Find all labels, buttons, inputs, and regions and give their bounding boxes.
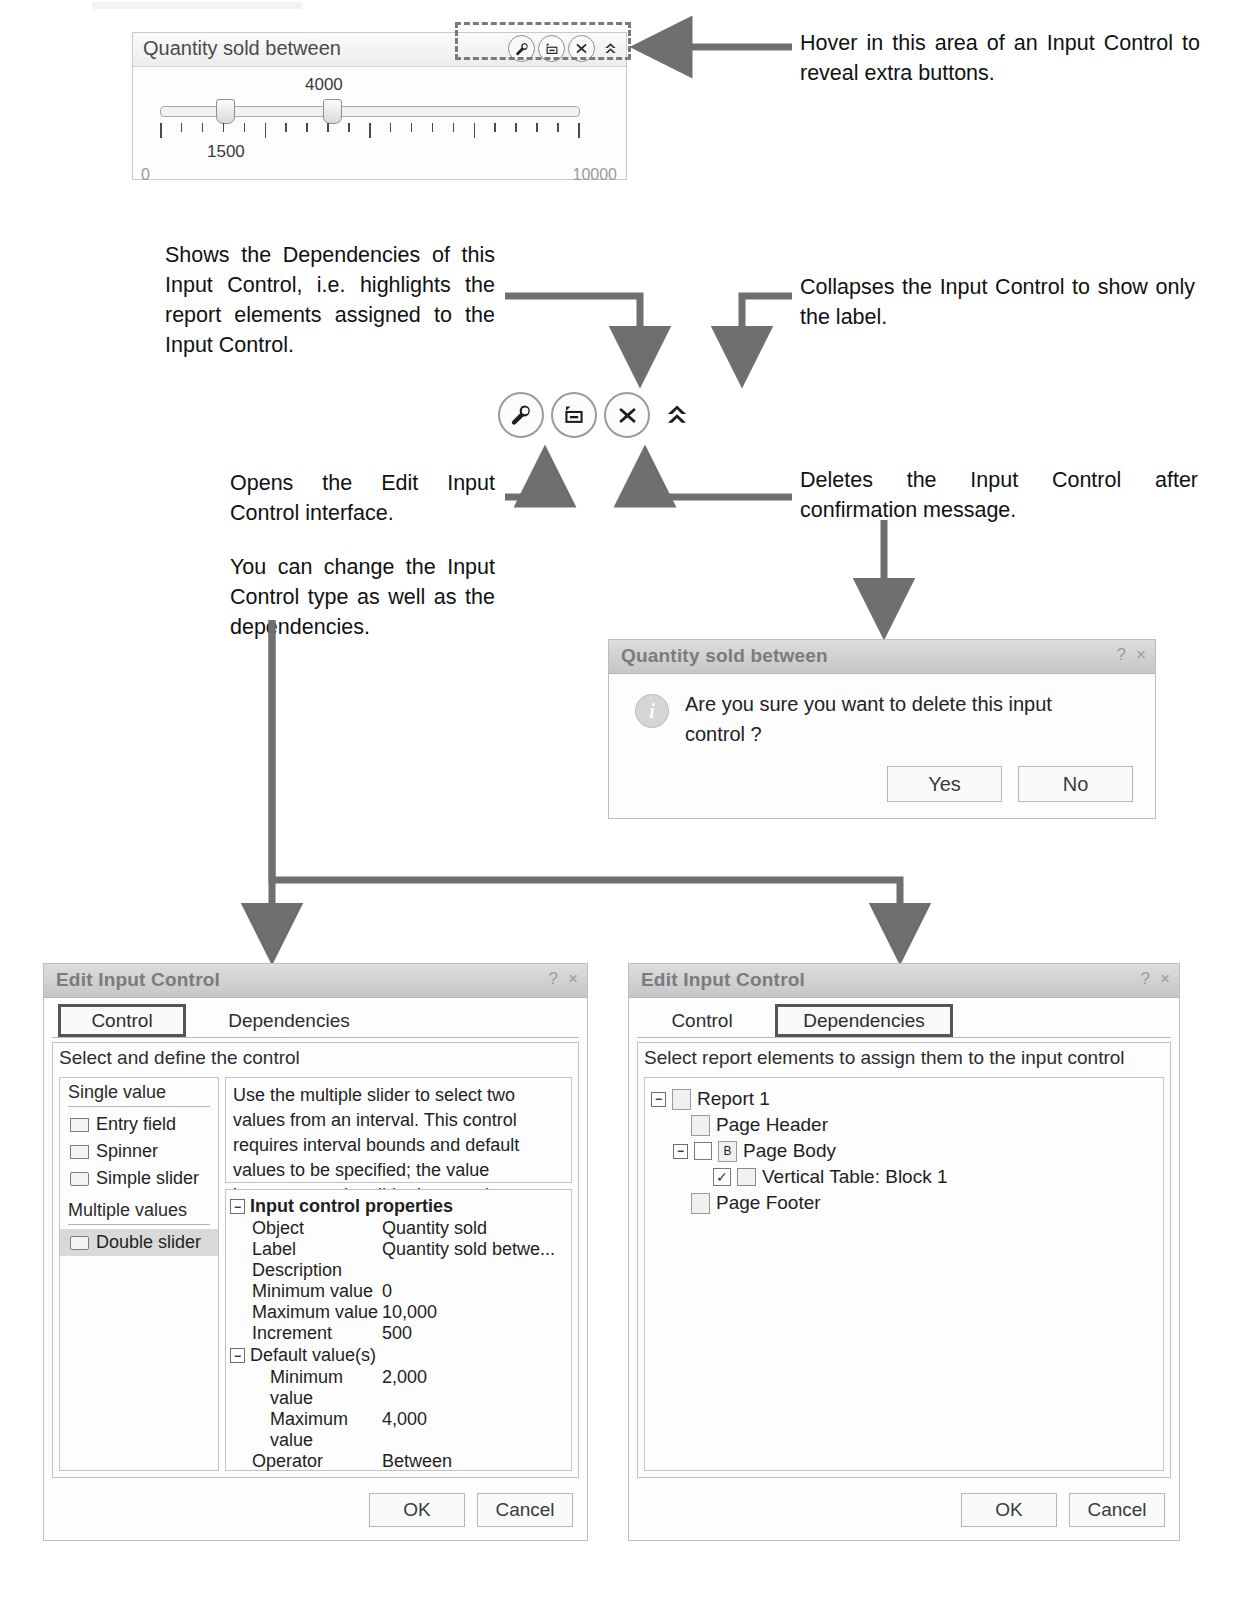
double-slider-icon <box>70 1236 89 1250</box>
property-row: Minimum value 2,000 <box>230 1367 567 1409</box>
help-icon[interactable]: ? <box>1117 645 1126 665</box>
property-value[interactable]: 2,000 <box>382 1367 567 1409</box>
body-icon: B <box>718 1141 737 1162</box>
dependencies-icon[interactable] <box>551 392 597 438</box>
slider-thumb-high[interactable] <box>323 99 342 124</box>
dialog-title-buttons: ? × <box>549 969 578 989</box>
property-value[interactable]: 500 <box>382 1323 567 1344</box>
group-label: Default value(s) <box>250 1345 376 1366</box>
property-value[interactable]: 4,000 <box>382 1409 567 1451</box>
property-key: Maximum value <box>230 1409 382 1451</box>
edit-input-control-dialog-dependencies: Edit Input Control ? × Control Dependenc… <box>628 963 1180 1541</box>
property-value[interactable]: 10,000 <box>382 1302 567 1323</box>
property-value[interactable]: Between <box>382 1451 567 1472</box>
property-value[interactable]: 0 <box>382 1281 567 1302</box>
annotation-dependencies: Shows the Dependencies of this Input Con… <box>165 240 495 360</box>
slider-value-low: 1500 <box>207 142 245 162</box>
property-key: Label <box>230 1239 382 1260</box>
spinner-icon <box>70 1145 89 1159</box>
group-heading-multiple: Multiple values <box>60 1192 218 1223</box>
property-key: Operator <box>230 1451 382 1472</box>
close-icon[interactable]: × <box>1160 969 1170 989</box>
tree-node-label: Page Footer <box>716 1192 821 1214</box>
property-row: Minimum value 0 <box>230 1281 567 1302</box>
tree-node-label: Page Header <box>716 1114 828 1136</box>
control-type-entry-field[interactable]: Entry field <box>60 1111 218 1138</box>
tab-control[interactable]: Control <box>647 1004 757 1037</box>
annotation-hover: Hover in this area of an Input Control t… <box>800 28 1200 88</box>
dialog-title: Edit Input Control <box>641 969 805 991</box>
property-value[interactable] <box>382 1260 567 1281</box>
cancel-button[interactable]: Cancel <box>1069 1493 1165 1527</box>
annotation-delete: Deletes the Input Control after confirma… <box>800 465 1198 525</box>
collapse-toggle-icon[interactable]: − <box>230 1199 245 1214</box>
report-icon <box>672 1089 691 1110</box>
info-icon: i <box>635 694 669 728</box>
control-type-spinner[interactable]: Spinner <box>60 1138 218 1165</box>
tab-dependencies[interactable]: Dependencies <box>204 1004 374 1037</box>
dialog-buttons: OK Cancel <box>369 1493 573 1527</box>
default-values-group-header[interactable]: − Default value(s) <box>230 1344 567 1367</box>
input-control-toolbar-callout <box>498 392 697 438</box>
dialog-title-buttons: ? × <box>1117 645 1146 665</box>
confirmation-buttons: Yes No <box>887 766 1133 802</box>
cancel-button[interactable]: Cancel <box>477 1493 573 1527</box>
tree-node-label: Vertical Table: Block 1 <box>762 1166 948 1188</box>
tree-node-page-footer[interactable]: Page Footer <box>651 1190 1157 1216</box>
control-panel: Select and define the control Single val… <box>52 1042 579 1478</box>
cut-off-text-artifact <box>92 2 302 9</box>
tab-dependencies[interactable]: Dependencies <box>775 1004 953 1037</box>
tree-node-report[interactable]: − Report 1 <box>651 1086 1157 1112</box>
close-x-icon[interactable] <box>604 392 650 438</box>
tree-node-vertical-table[interactable]: ✓ Vertical Table: Block 1 <box>651 1164 1157 1190</box>
page-icon <box>691 1193 710 1214</box>
property-value[interactable]: Quantity sold betwe... <box>382 1239 567 1260</box>
tree-node-label: Report 1 <box>697 1088 770 1110</box>
entry-field-icon <box>70 1118 89 1132</box>
slider-thumb-low[interactable] <box>216 99 235 124</box>
property-key: Minimum value <box>230 1367 382 1409</box>
properties-group-header[interactable]: − Input control properties <box>230 1195 567 1218</box>
ok-button[interactable]: OK <box>961 1493 1057 1527</box>
property-value[interactable]: Quantity sold <box>382 1218 567 1239</box>
dialog-title-bar: Edit Input Control ? × <box>44 964 587 998</box>
edit-input-control-dialog-control: Edit Input Control ? × Control Dependenc… <box>43 963 588 1541</box>
tab-control[interactable]: Control <box>58 1004 186 1037</box>
divider <box>68 1106 210 1107</box>
dialog-title-bar: Quantity sold between ? × <box>609 640 1155 674</box>
simple-slider-icon <box>70 1172 89 1186</box>
control-type-double-slider[interactable]: Double slider <box>60 1229 218 1256</box>
properties-list: − Input control properties Object Quanti… <box>225 1189 572 1471</box>
wrench-icon[interactable] <box>498 392 544 438</box>
property-row: Operator Between <box>230 1451 567 1472</box>
divider <box>68 1224 210 1225</box>
ok-button[interactable]: OK <box>369 1493 465 1527</box>
property-row: Maximum value 10,000 <box>230 1302 567 1323</box>
help-icon[interactable]: ? <box>1141 969 1150 989</box>
group-label: Input control properties <box>250 1196 453 1217</box>
panel-heading: Select and define the control <box>53 1043 578 1073</box>
type-label: Double slider <box>96 1232 201 1253</box>
page-icon <box>691 1115 710 1136</box>
dialog-title: Edit Input Control <box>56 969 220 991</box>
collapse-toggle-icon[interactable]: − <box>230 1348 245 1363</box>
confirmation-message: Are you sure you want to delete this inp… <box>685 689 1085 749</box>
yes-button[interactable]: Yes <box>887 766 1002 802</box>
dialog-title-buttons: ? × <box>1141 969 1170 989</box>
collapse-toggle-icon[interactable]: − <box>673 1144 688 1159</box>
close-icon[interactable]: × <box>568 969 578 989</box>
help-icon[interactable]: ? <box>549 969 558 989</box>
collapse-toggle-icon[interactable]: − <box>651 1092 666 1107</box>
checkbox[interactable] <box>694 1142 712 1160</box>
tree-node-page-body[interactable]: − B Page Body <box>651 1138 1157 1164</box>
close-icon[interactable]: × <box>1136 645 1146 665</box>
checkbox-checked[interactable]: ✓ <box>713 1168 731 1186</box>
double-chevron-up-icon[interactable] <box>657 394 697 436</box>
tree-node-page-header[interactable]: Page Header <box>651 1112 1157 1138</box>
property-key: Increment <box>230 1323 382 1344</box>
no-button[interactable]: No <box>1018 766 1133 802</box>
property-key: Object <box>230 1218 382 1239</box>
control-type-simple-slider[interactable]: Simple slider <box>60 1165 218 1192</box>
property-key: Maximum value <box>230 1302 382 1323</box>
tab-bar: Control Dependencies <box>629 1000 1179 1040</box>
